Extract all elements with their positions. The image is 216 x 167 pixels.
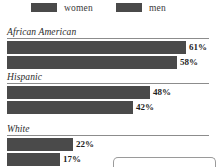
bar-value-white-men: 17% (63, 153, 81, 166)
bar-row-african-american-men: 58% (0, 56, 216, 69)
bar-value-african-american-men: 58% (180, 56, 198, 69)
bar-group-hispanic: Hispanic 48% 42% (0, 72, 216, 113)
bar-value-white-women: 22% (76, 138, 94, 151)
grouped-bar-chart: women men African American 61% 58% Hispa… (0, 0, 216, 167)
bar-group-label-hispanic: Hispanic (7, 72, 42, 83)
bar-row-hispanic-men: 42% (0, 101, 216, 114)
group-divider-rule (7, 38, 209, 39)
legend-swatch-women-icon (31, 3, 57, 12)
bar-value-hispanic-men: 42% (136, 101, 154, 114)
bar-row-hispanic-women: 48% (0, 86, 216, 99)
bar-group-label-african-american: African American (7, 27, 76, 38)
group-divider-rule (7, 135, 209, 136)
bar-african-american-women (7, 41, 186, 54)
bar-hispanic-men (7, 101, 133, 114)
bar-row-african-american-women: 61% (0, 41, 216, 54)
legend-swatch-men-icon (116, 3, 142, 12)
bar-white-women (7, 138, 73, 151)
legend-entry-women: women (31, 0, 93, 16)
bar-african-american-men (7, 56, 177, 69)
bar-hispanic-women (7, 86, 150, 99)
legend-label-men: men (149, 0, 166, 16)
bar-white-men (7, 153, 60, 166)
bottom-panel-edge (113, 157, 216, 167)
legend-entry-men: men (116, 0, 166, 16)
bar-group-african-american: African American 61% 58% (0, 27, 216, 68)
bar-group-label-white: White (7, 124, 30, 135)
group-divider-rule (7, 83, 209, 84)
bar-value-hispanic-women: 48% (153, 86, 171, 99)
bar-value-african-american-women: 61% (189, 41, 207, 54)
bar-row-white-women: 22% (0, 138, 216, 151)
chart-legend: women men (0, 0, 216, 16)
legend-label-women: women (64, 0, 93, 16)
